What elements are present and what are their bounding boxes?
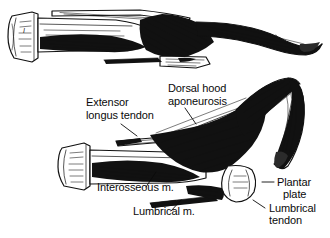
anatomical-figure: I [0, 0, 330, 238]
label-lumbrical-tendon-line1: Lumbrical [269, 202, 316, 214]
label-plantar-line2: plate [283, 188, 306, 200]
svg-text:I: I [23, 27, 25, 34]
label-dorsal-line1: Dorsal hood [168, 82, 226, 94]
metatarsal-base-lower [58, 143, 90, 190]
plantar-plate-lower [222, 166, 256, 203]
label-plantar-line1: Plantar [277, 176, 312, 188]
label-interosseous: Interosseous m. [97, 181, 174, 193]
label-extensor-line2: longus tendon [86, 109, 154, 121]
label-lumbrical-muscle: Lumbrical m. [133, 205, 195, 217]
label-interosseous-muscle: Interosseous m. [97, 181, 174, 193]
label-lumbrical-tendon-line2: tendon [269, 214, 302, 226]
figure-canvas: I [0, 0, 330, 238]
label-lumbrical-muscle: Lumbrical m. [133, 205, 195, 217]
label-dorsal-hood-aponeurosis: Dorsal hood aponeurosis [168, 82, 227, 107]
metatarsal-base-upper: I [8, 12, 38, 62]
label-dorsal-line2: aponeurosis [168, 95, 227, 107]
label-extensor-line1: Extensor [86, 96, 129, 108]
plantar-plate-upper [160, 56, 210, 68]
